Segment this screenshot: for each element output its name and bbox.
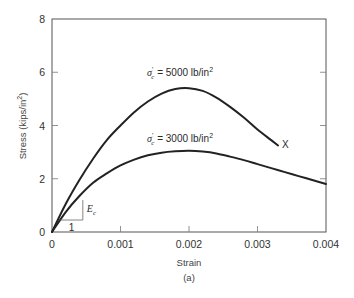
slope-run-label: 1 [69, 222, 75, 233]
y-tick-label: 4 [39, 120, 45, 132]
prime-mark: ' [152, 132, 153, 139]
superscript-2: 2 [209, 132, 213, 139]
plot-frame [52, 19, 326, 232]
x-tick-label: 0.002 [176, 238, 202, 250]
y-tick-label: 0 [39, 226, 45, 238]
modulus-label: Ec [86, 203, 97, 217]
prime-mark: ' [152, 66, 153, 73]
series-line-1 [52, 151, 326, 232]
y-tick-label: 6 [39, 66, 45, 78]
y-tick-label: 2 [39, 173, 45, 185]
x-tick-label: 0.001 [107, 238, 133, 250]
y-axis-title-main: Stress (kips/in [17, 100, 28, 160]
strength-value: = 5000 lb/in [154, 67, 209, 78]
modulus-subscript: c [93, 209, 97, 217]
x-tick-label: 0 [49, 238, 55, 250]
modulus-symbol: E [86, 203, 93, 214]
x-tick-label: 0.003 [244, 238, 270, 250]
strength-value: = 3000 lb/in [154, 133, 209, 144]
y-axis-title: Stress (kips/in2) [16, 93, 28, 160]
stress-strain-chart: 00.0010.0020.0030.004 02468 Xσ'c = 5000 … [0, 0, 354, 298]
superscript-2: 2 [209, 66, 213, 73]
y-axis-title-close: ) [17, 93, 28, 96]
x-tick-label: 0.004 [313, 238, 339, 250]
y-axis-ticks: 02468 [39, 13, 326, 238]
series-label-1: σ'c = 3000 lb/in2 [147, 132, 213, 147]
series-layer: Xσ'c = 5000 lb/in2σ'c = 3000 lb/in2 [52, 66, 326, 232]
x-axis-title: Strain [177, 257, 202, 268]
figure-caption: (a) [183, 272, 195, 283]
failure-marker: X [282, 139, 289, 150]
y-tick-label: 8 [39, 13, 45, 25]
series-label-0: σ'c = 5000 lb/in2 [147, 66, 213, 81]
x-axis-ticks: 00.0010.0020.0030.004 [49, 226, 339, 250]
